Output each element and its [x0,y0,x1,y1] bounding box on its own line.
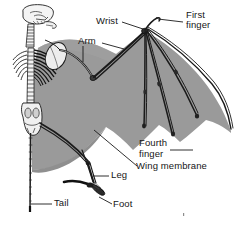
leader-foot [99,197,112,204]
first-finger [145,18,160,30]
bat-diagram-svg [0,0,239,228]
leader-wrist [122,22,143,29]
bat-anatomy-figure: Wrist First finger Arm Fourth finger Win… [0,0,239,228]
label-tail: Tail [54,198,69,209]
label-leg: Leg [111,170,127,181]
cervical-vertebrae [26,24,34,47]
foot [64,181,105,195]
leader-arm-right [102,43,124,49]
spine [27,48,34,103]
label-fourth-finger-1: Fourth [139,138,167,149]
label-wrist: Wrist [96,16,118,27]
label-first-finger-2: finger [186,20,210,31]
print-artifact [183,213,184,216]
label-arm: Arm [78,36,96,47]
label-wing-membrane: Wing membrane [136,161,207,172]
label-foot: Foot [113,199,132,210]
label-fourth-finger-2: finger [139,149,163,160]
pelvis [22,103,43,135]
leader-first-finger [158,19,183,22]
tail [29,133,33,212]
